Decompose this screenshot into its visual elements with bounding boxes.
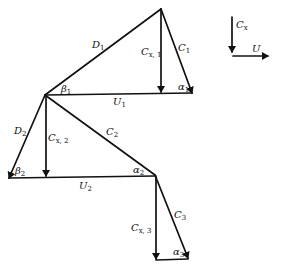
label-U1: U1 xyxy=(113,96,126,109)
label-C2: C2 xyxy=(106,126,118,139)
label-D2: D2 xyxy=(13,125,27,138)
label-D1: D1 xyxy=(91,39,105,52)
label-alpha3: α3 xyxy=(173,246,184,259)
vector-C2 xyxy=(45,95,155,175)
label-C1: C1 xyxy=(178,42,190,55)
label-Cx2: Cx, 2 xyxy=(48,132,69,145)
legend-u-label: U xyxy=(252,43,261,54)
velocity-triangle-diagram: D1 Cx, 1 C1 β1 α1 U1 D2 Cx, 2 C2 β2 α2 U… xyxy=(0,0,282,269)
label-Cx1: Cx, 1 xyxy=(141,46,162,59)
label-U2: U2 xyxy=(79,180,92,193)
legend-cx-label: Cx xyxy=(236,19,248,32)
label-C3: C3 xyxy=(174,209,186,222)
label-beta2: β2 xyxy=(14,165,25,178)
vector-U3 xyxy=(156,259,188,260)
vector-U2 xyxy=(9,176,155,178)
label-Cx3: Cx, 3 xyxy=(131,222,152,235)
